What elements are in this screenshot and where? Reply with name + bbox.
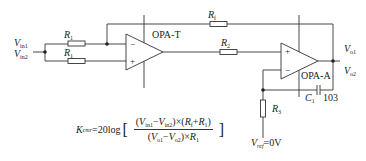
label-vo2: Vo2	[344, 66, 356, 79]
junction-dot	[43, 50, 47, 54]
opa-t-minus-pin: −	[130, 39, 135, 49]
label-opa-a: OPA-A	[301, 71, 331, 81]
label-c1: C1	[305, 93, 315, 106]
junction-dot	[331, 59, 335, 63]
label-opa-t: OPA-T	[152, 30, 181, 40]
label-r1-top: R1	[64, 30, 73, 43]
label-c1-value: 103	[323, 93, 338, 103]
opa-a-minus-pin: −	[285, 65, 290, 75]
label-vref: Vref=0V	[251, 138, 281, 151]
opa-a-plus-pin: +	[285, 46, 290, 56]
resistor-r3	[261, 100, 266, 117]
label-rf: Rf	[208, 10, 216, 23]
opa-t-plus-pin: +	[130, 56, 135, 66]
formula-fraction: (Vin1−Vin2)×(Rf+R1) (Vo1−Vo2)×R1	[134, 116, 213, 143]
label-vo1: Vo1	[344, 44, 356, 57]
junction-dot	[261, 88, 265, 92]
label-vin2: Vin2	[14, 49, 28, 62]
junction-dot	[105, 42, 109, 46]
label-r2: R2	[221, 38, 230, 51]
formula-numerator: (Vin1−Vin2)×(Rf+R1)	[134, 116, 213, 130]
formula-denominator: (Vo1−Vo2)×R1	[146, 130, 201, 143]
label-r3: R3	[272, 104, 281, 117]
cmrr-formula: Kcmr =20log [ (Vin1−Vin2)×(Rf+R1) (Vo1−V…	[76, 116, 226, 143]
label-r1-bottom: R1	[64, 48, 73, 61]
